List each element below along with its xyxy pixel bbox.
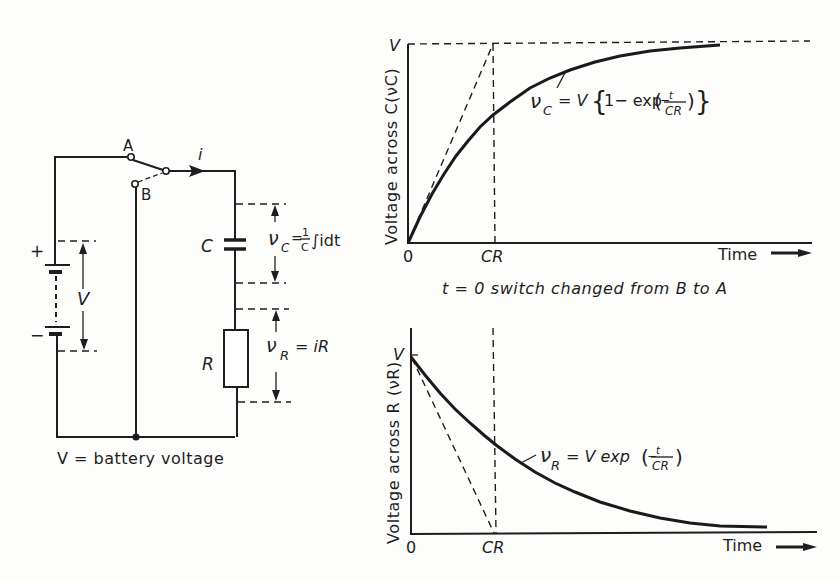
time-arrow-icon: [771, 249, 812, 257]
capacitor-icon: [224, 240, 246, 249]
switch-terminal-a-label: A: [123, 137, 134, 155]
vc-fraction-numerator: 1: [302, 226, 309, 239]
top-chart-x-origin: 0: [403, 247, 413, 266]
top-chart-y-axis-label: Voltage across C(νC): [382, 68, 401, 245]
top-chart-asymptote: [408, 41, 810, 44]
top-chart-cr-line: [493, 44, 495, 243]
svg-text:ν: ν: [540, 443, 551, 467]
capacitor-voltage-chart: Voltage across C(νC) V ν C = V { 1− exp …: [382, 36, 812, 266]
svg-text:): ): [687, 89, 695, 113]
top-chart-axes: [408, 44, 812, 243]
figure-canvas: + − V A B i: [0, 0, 840, 581]
svg-text:C: C: [543, 103, 553, 118]
battery-voltage-dimension: V: [58, 241, 97, 351]
bottom-chart-tangent: [412, 358, 494, 533]
battery-icon: [45, 265, 70, 334]
svg-text:= V exp: = V exp: [566, 447, 630, 466]
wire-left-top: [55, 157, 131, 240]
svg-text:= V: = V: [558, 91, 588, 110]
wire-right-top: [169, 171, 235, 240]
svg-text:R: R: [551, 458, 560, 473]
svg-text:CR: CR: [652, 459, 669, 473]
svg-text:t: t: [656, 445, 661, 456]
junction-dot: [132, 433, 139, 440]
resistor-label: R: [202, 354, 214, 374]
current-label: i: [198, 145, 203, 164]
circuit-diagram: + − V A B i: [30, 137, 340, 468]
vc-fraction-denominator: C: [301, 241, 309, 254]
top-chart-v-tick: V: [389, 36, 401, 55]
bottom-chart-y-axis-label: Voltage across R (νR): [384, 361, 403, 544]
resistor-voltage-chart: Voltage across R (νR) V ν R = V exp ( − …: [384, 328, 817, 557]
battery-minus-label: −: [30, 325, 44, 345]
rc-circuit-figure: + − V A B i: [0, 0, 840, 581]
bottom-chart-v-tick: V: [393, 345, 405, 364]
bottom-chart-x-origin: 0: [406, 538, 416, 557]
circuit-caption: V = battery voltage: [57, 449, 224, 468]
vr-subscript: R: [280, 348, 289, 363]
bottom-chart-vr-curve: [411, 357, 767, 527]
top-chart-x-axis-label: Time: [717, 245, 757, 264]
battery-voltage-label: V: [77, 288, 91, 309]
bottom-chart-cr-line: [493, 328, 496, 533]
switch-event-caption: t = 0 switch changed from B to A: [442, 279, 727, 298]
svg-text:): ): [675, 445, 683, 469]
resistor-icon: [224, 330, 248, 387]
vc-symbol: ν: [268, 227, 279, 249]
vr-dimension: ν R = iR: [236, 309, 329, 402]
vr-equation: = iR: [295, 337, 329, 356]
bottom-chart-x-axis-label: Time: [722, 536, 762, 555]
bottom-chart-leader: [521, 455, 536, 463]
svg-text:t: t: [669, 90, 674, 101]
time-arrow-icon: [776, 543, 817, 551]
switch-terminal-b-label: B: [141, 186, 151, 204]
battery-plus-label: +: [30, 241, 44, 261]
top-chart-x-cr: CR: [481, 247, 503, 266]
bottom-chart-equation: ν R = V exp ( − t CR ): [540, 443, 683, 473]
capacitor-label: C: [201, 236, 213, 256]
bottom-chart-axes: [411, 328, 817, 534]
top-chart-equation: ν C = V { 1− exp ( − t CR ) }: [530, 86, 712, 118]
bottom-chart-x-cr: CR: [482, 538, 504, 557]
svg-text:CR: CR: [665, 104, 682, 118]
svg-text:ν: ν: [530, 89, 541, 113]
vc-integral: ∫idt: [311, 231, 340, 250]
vr-symbol: ν: [266, 334, 277, 356]
switch-icon: A B: [123, 137, 169, 204]
vc-dimension: ν C = 1 C ∫idt: [236, 204, 340, 283]
vc-subscript: C: [281, 241, 290, 255]
svg-text:}: }: [695, 86, 712, 116]
